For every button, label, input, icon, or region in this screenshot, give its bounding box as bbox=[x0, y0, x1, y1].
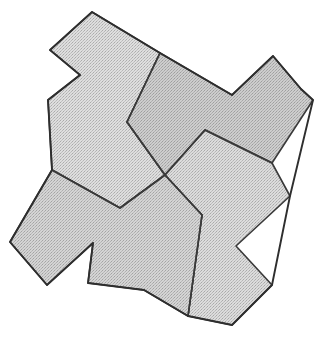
partitioned-polygon-diagram: Partitioned irregular polygon An irregul… bbox=[0, 0, 328, 346]
figure-root: Partitioned irregular polygon An irregul… bbox=[0, 0, 328, 346]
